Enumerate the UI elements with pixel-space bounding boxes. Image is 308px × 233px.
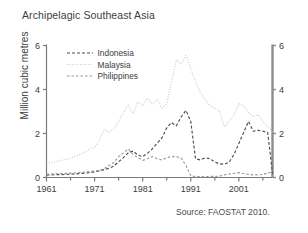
legend-label-malaysia: Malaysia xyxy=(98,60,131,70)
x-tick-label: 2001 xyxy=(229,184,249,194)
y-tick-label-left: 2 xyxy=(35,129,40,139)
tick-labels: 0022446619611971198119912001 xyxy=(35,41,284,194)
x-tick-label: 1991 xyxy=(181,184,201,194)
source-note: Source: FAOSTAT 2010. xyxy=(176,207,270,217)
series-line-indonesia xyxy=(47,110,273,174)
x-tick-label: 1981 xyxy=(133,184,153,194)
y-tick-label-right: 2 xyxy=(279,129,284,139)
series-line-philippines xyxy=(47,149,273,177)
legend-label-indonesia: Indonesia xyxy=(98,48,135,58)
x-tick-label: 1971 xyxy=(85,184,105,194)
y-tick-label-right: 0 xyxy=(279,173,284,183)
x-tick-label: 1961 xyxy=(36,184,56,194)
y-tick-label-right: 6 xyxy=(279,41,284,51)
series-line-malaysia xyxy=(47,55,273,163)
y-tick-label-left: 6 xyxy=(35,41,40,51)
y-tick-label-left: 4 xyxy=(35,85,40,95)
chart-legend: IndonesiaMalaysiaPhilippines xyxy=(67,48,138,81)
chart-figure: Archipelagic Southeast Asia Million cubi… xyxy=(0,0,308,233)
plot-area: IndonesiaMalaysiaPhilippines 00224466196… xyxy=(0,0,308,233)
y-tick-label-right: 4 xyxy=(279,85,284,95)
data-series-group xyxy=(47,55,273,176)
legend-label-philippines: Philippines xyxy=(98,71,139,81)
y-tick-label-left: 0 xyxy=(35,173,40,183)
